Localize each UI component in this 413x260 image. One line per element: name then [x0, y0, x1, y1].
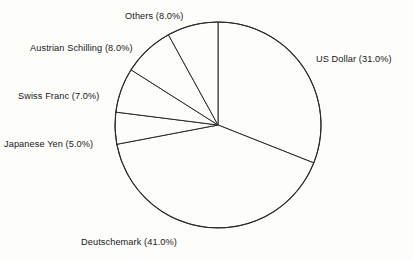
pie-slice-group — [115, 22, 321, 228]
slice-label-swiss-franc: Swiss Franc (7.0%) — [18, 91, 99, 102]
slice-label-japanese-yen: Japanese Yen (5.0%) — [4, 139, 93, 150]
slice-label-others: Others (8.0%) — [125, 11, 183, 22]
pie-chart-figure: US Dollar (31.0%) Deutschemark (41.0%) J… — [0, 0, 413, 260]
slice-label-austrian-schilling: Austrian Schilling (8.0%) — [30, 43, 133, 54]
pie-chart-canvas — [0, 0, 413, 260]
slice-label-us-dollar: US Dollar (31.0%) — [316, 54, 392, 65]
slice-label-deutschemark: Deutschemark (41.0%) — [81, 237, 177, 248]
